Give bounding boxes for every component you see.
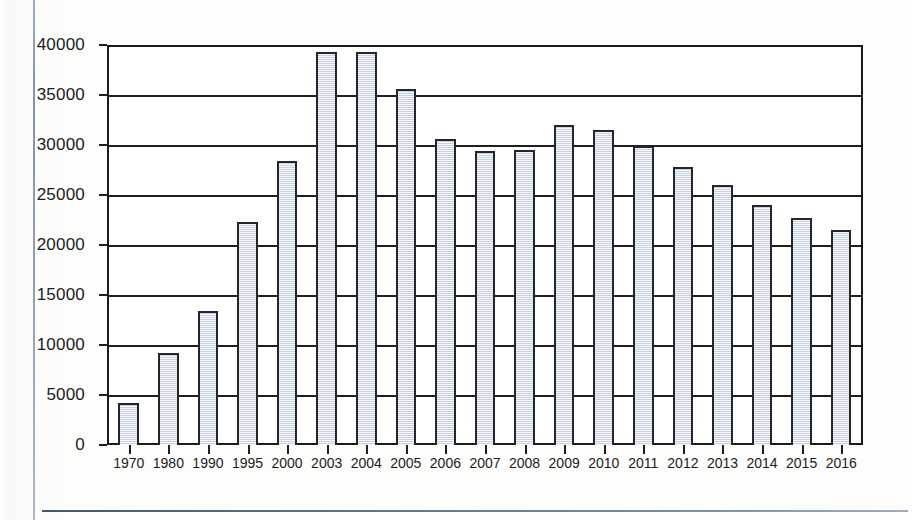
y-axis-tick-label: 30000: [37, 135, 85, 155]
x-axis-tick-label: 2000: [272, 455, 303, 471]
bar: [435, 139, 456, 445]
bar: [475, 151, 496, 445]
y-axis-tick-label: 5000: [46, 385, 85, 405]
x-axis-tick-label: 2014: [746, 455, 777, 471]
x-axis-tick: [722, 445, 724, 454]
y-axis-tick: [99, 194, 107, 196]
x-axis-tick-label: 2009: [549, 455, 580, 471]
x-axis-tick: [564, 445, 566, 454]
bar: [514, 150, 535, 446]
y-axis-tick-label: 25000: [37, 185, 85, 205]
bar-chart: 0500010000150002000025000300003500040000…: [0, 0, 912, 520]
bar: [593, 130, 614, 445]
x-axis-tick: [802, 445, 804, 454]
bar: [198, 311, 219, 445]
x-axis-tick-label: 2012: [667, 455, 698, 471]
y-axis-tick: [99, 294, 107, 296]
x-axis-tick-label: 2011: [628, 455, 658, 471]
x-axis-tick-label: 2005: [390, 455, 421, 471]
x-axis-tick-label: 1995: [232, 455, 263, 471]
bar: [633, 146, 654, 445]
bar: [396, 89, 417, 445]
x-axis-labels: 1970198019901995200020032004200520062007…: [109, 455, 861, 485]
x-axis-tick: [406, 445, 408, 454]
y-axis-tick: [99, 344, 107, 346]
x-axis-tick-label: 1990: [192, 455, 223, 471]
x-axis-tick-label: 2006: [430, 455, 461, 471]
y-axis-tick-label: 40000: [37, 35, 85, 55]
bar: [158, 353, 179, 445]
x-axis-tick: [683, 445, 685, 454]
x-axis-tick-label: 2004: [351, 455, 382, 471]
y-axis-tick-label: 20000: [37, 235, 85, 255]
x-axis-tick-label: 1970: [113, 455, 144, 471]
bar: [791, 218, 812, 445]
x-axis-tick-label: 1980: [153, 455, 184, 471]
x-axis-tick-label: 2008: [509, 455, 540, 471]
y-axis-tick: [99, 94, 107, 96]
x-axis-tick: [445, 445, 447, 454]
x-axis-tick: [643, 445, 645, 454]
x-axis-tick: [327, 445, 329, 454]
x-axis-tick: [485, 445, 487, 454]
x-axis-tick: [841, 445, 843, 454]
x-axis-tick: [129, 445, 131, 454]
y-axis-labels: 0500010000150002000025000300003500040000: [0, 45, 99, 445]
y-axis-tick: [99, 444, 107, 446]
bar: [712, 185, 733, 445]
y-axis-tick-label: 0: [75, 435, 85, 455]
x-axis-tick: [366, 445, 368, 454]
y-axis-tick-label: 35000: [37, 85, 85, 105]
x-axis-tick-label: 2013: [707, 455, 738, 471]
x-axis-tick: [287, 445, 289, 454]
x-axis-tick: [248, 445, 250, 454]
bar: [673, 167, 694, 445]
y-axis-tick: [99, 144, 107, 146]
bar-series: [109, 47, 861, 445]
bar: [118, 403, 139, 445]
x-axis-tick: [762, 445, 764, 454]
x-axis-tick: [208, 445, 210, 454]
bar: [554, 125, 575, 445]
x-axis-tick-label: 2007: [469, 455, 500, 471]
y-axis-tick: [99, 394, 107, 396]
x-axis-tick-label: 2015: [786, 455, 817, 471]
y-axis-tick-label: 10000: [37, 335, 85, 355]
bar: [831, 230, 852, 445]
y-axis-tick: [99, 244, 107, 246]
x-axis-tick: [168, 445, 170, 454]
y-axis-tick-label: 15000: [37, 285, 85, 305]
x-axis-tick-label: 2003: [311, 455, 342, 471]
bar: [277, 161, 298, 445]
x-axis-tick: [525, 445, 527, 454]
x-axis-tick-label: 2010: [588, 455, 619, 471]
x-axis-tick-label: 2016: [826, 455, 857, 471]
bar: [752, 205, 773, 445]
bar: [237, 222, 258, 445]
y-axis-tick: [99, 44, 107, 46]
x-axis-tick: [604, 445, 606, 454]
bar: [356, 52, 377, 445]
bar: [316, 52, 337, 445]
